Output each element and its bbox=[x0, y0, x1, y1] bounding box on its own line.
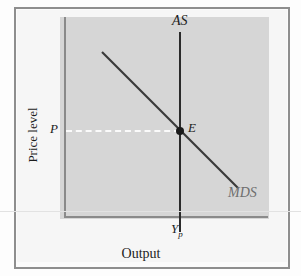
potential-output-label: Yp bbox=[171, 222, 183, 239]
potential-output-subscript: p bbox=[178, 229, 183, 239]
y-axis-line bbox=[64, 17, 66, 218]
x-axis-label: Output bbox=[122, 247, 161, 261]
scan-artifact-line bbox=[0, 211, 301, 212]
mds-curve-label: MDS bbox=[228, 186, 257, 200]
economics-figure: AS MDS E P Yp Output Price level bbox=[0, 0, 301, 276]
y-axis-label: Price level bbox=[26, 107, 39, 162]
as-curve-label: AS bbox=[172, 14, 188, 28]
equilibrium-point-marker bbox=[176, 127, 184, 135]
price-axis-tick-label: P bbox=[50, 122, 58, 135]
equilibrium-label: E bbox=[188, 121, 196, 134]
price-level-guideline bbox=[66, 130, 180, 132]
x-axis-line bbox=[64, 216, 268, 218]
